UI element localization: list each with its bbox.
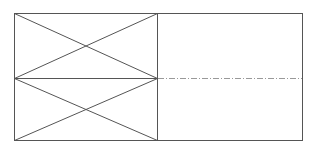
lower-left-cross (15, 79, 158, 141)
upper-left-cross (15, 14, 158, 79)
drawing-canvas (0, 0, 315, 153)
